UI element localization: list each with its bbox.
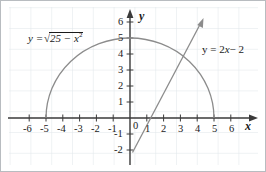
math-graph-figure: -6 -5 -4 -3 -2 -1 1 2 3 4 5 6 6 5 4 3 2 …: [0, 0, 266, 172]
figure-border: [0, 0, 266, 172]
